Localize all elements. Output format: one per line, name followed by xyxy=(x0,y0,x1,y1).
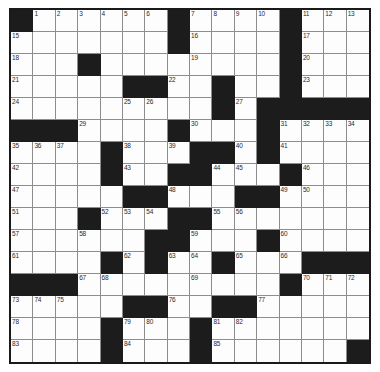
grid-letter-square[interactable] xyxy=(235,230,257,252)
grid-letter-square[interactable]: 29 xyxy=(78,120,100,142)
grid-letter-square[interactable]: 80 xyxy=(145,318,167,340)
grid-letter-square[interactable] xyxy=(302,208,324,230)
grid-letter-square[interactable] xyxy=(257,252,279,274)
grid-letter-square[interactable]: 31 xyxy=(280,120,302,142)
grid-letter-square[interactable] xyxy=(56,54,78,76)
grid-letter-square[interactable]: 51 xyxy=(11,208,33,230)
grid-letter-square[interactable] xyxy=(33,54,55,76)
grid-letter-square[interactable] xyxy=(190,186,212,208)
grid-letter-square[interactable]: 56 xyxy=(235,208,257,230)
grid-letter-square[interactable]: 25 xyxy=(123,98,145,120)
grid-letter-square[interactable] xyxy=(235,76,257,98)
grid-letter-square[interactable] xyxy=(324,164,346,186)
grid-letter-square[interactable] xyxy=(78,252,100,274)
grid-letter-square[interactable] xyxy=(78,76,100,98)
grid-letter-square[interactable] xyxy=(257,208,279,230)
grid-letter-square[interactable]: 5 xyxy=(123,10,145,32)
grid-letter-square[interactable] xyxy=(235,32,257,54)
grid-letter-square[interactable]: 73 xyxy=(11,296,33,318)
grid-letter-square[interactable] xyxy=(145,54,167,76)
grid-letter-square[interactable] xyxy=(190,98,212,120)
grid-letter-square[interactable] xyxy=(101,98,123,120)
grid-letter-square[interactable]: 13 xyxy=(347,10,369,32)
grid-letter-square[interactable]: 78 xyxy=(11,318,33,340)
grid-letter-square[interactable] xyxy=(33,208,55,230)
grid-letter-square[interactable] xyxy=(324,76,346,98)
grid-letter-square[interactable] xyxy=(123,120,145,142)
grid-letter-square[interactable] xyxy=(78,340,100,362)
grid-letter-square[interactable] xyxy=(235,120,257,142)
grid-letter-square[interactable] xyxy=(347,142,369,164)
grid-letter-square[interactable] xyxy=(145,274,167,296)
grid-letter-square[interactable]: 83 xyxy=(11,340,33,362)
grid-letter-square[interactable] xyxy=(347,54,369,76)
grid-letter-square[interactable] xyxy=(257,164,279,186)
grid-letter-square[interactable] xyxy=(33,340,55,362)
grid-letter-square[interactable]: 54 xyxy=(145,208,167,230)
grid-letter-square[interactable]: 33 xyxy=(324,120,346,142)
grid-letter-square[interactable] xyxy=(347,318,369,340)
grid-letter-square[interactable]: 62 xyxy=(123,252,145,274)
grid-letter-square[interactable]: 23 xyxy=(302,76,324,98)
grid-letter-square[interactable] xyxy=(78,186,100,208)
grid-letter-square[interactable] xyxy=(101,54,123,76)
grid-letter-square[interactable]: 66 xyxy=(280,252,302,274)
grid-letter-square[interactable] xyxy=(324,296,346,318)
grid-letter-square[interactable]: 79 xyxy=(123,318,145,340)
grid-letter-square[interactable]: 11 xyxy=(302,10,324,32)
grid-letter-square[interactable]: 6 xyxy=(145,10,167,32)
grid-letter-square[interactable]: 50 xyxy=(302,186,324,208)
grid-letter-square[interactable]: 9 xyxy=(235,10,257,32)
grid-letter-square[interactable] xyxy=(302,296,324,318)
grid-letter-square[interactable] xyxy=(257,274,279,296)
grid-letter-square[interactable]: 16 xyxy=(190,32,212,54)
grid-letter-square[interactable] xyxy=(78,98,100,120)
grid-letter-square[interactable]: 57 xyxy=(11,230,33,252)
grid-letter-square[interactable]: 52 xyxy=(101,208,123,230)
grid-letter-square[interactable]: 34 xyxy=(347,120,369,142)
grid-letter-square[interactable]: 67 xyxy=(78,274,100,296)
grid-letter-square[interactable] xyxy=(302,340,324,362)
grid-letter-square[interactable] xyxy=(123,230,145,252)
grid-letter-square[interactable]: 71 xyxy=(324,274,346,296)
grid-letter-square[interactable] xyxy=(324,32,346,54)
grid-letter-square[interactable] xyxy=(235,54,257,76)
grid-letter-square[interactable]: 45 xyxy=(235,164,257,186)
grid-letter-square[interactable] xyxy=(101,76,123,98)
grid-letter-square[interactable]: 59 xyxy=(190,230,212,252)
grid-letter-square[interactable] xyxy=(33,252,55,274)
grid-letter-square[interactable] xyxy=(168,340,190,362)
grid-letter-square[interactable] xyxy=(324,142,346,164)
grid-letter-square[interactable]: 41 xyxy=(280,142,302,164)
grid-letter-square[interactable]: 7 xyxy=(190,10,212,32)
grid-letter-square[interactable]: 74 xyxy=(33,296,55,318)
grid-letter-square[interactable] xyxy=(302,318,324,340)
grid-letter-square[interactable] xyxy=(101,296,123,318)
grid-letter-square[interactable] xyxy=(347,32,369,54)
grid-letter-square[interactable] xyxy=(280,318,302,340)
grid-letter-square[interactable]: 26 xyxy=(145,98,167,120)
grid-letter-square[interactable]: 27 xyxy=(235,98,257,120)
grid-letter-square[interactable] xyxy=(257,318,279,340)
grid-letter-square[interactable]: 81 xyxy=(212,318,234,340)
grid-letter-square[interactable]: 36 xyxy=(33,142,55,164)
grid-letter-square[interactable] xyxy=(123,54,145,76)
grid-letter-square[interactable]: 65 xyxy=(235,252,257,274)
grid-letter-square[interactable]: 48 xyxy=(168,186,190,208)
grid-letter-square[interactable] xyxy=(56,340,78,362)
grid-letter-square[interactable]: 84 xyxy=(123,340,145,362)
grid-letter-square[interactable]: 32 xyxy=(302,120,324,142)
grid-letter-square[interactable] xyxy=(33,164,55,186)
grid-letter-square[interactable]: 61 xyxy=(11,252,33,274)
grid-letter-square[interactable] xyxy=(280,340,302,362)
grid-letter-square[interactable] xyxy=(324,230,346,252)
grid-letter-square[interactable]: 17 xyxy=(302,32,324,54)
grid-letter-square[interactable] xyxy=(212,274,234,296)
grid-letter-square[interactable] xyxy=(324,340,346,362)
grid-letter-square[interactable] xyxy=(168,98,190,120)
grid-letter-square[interactable] xyxy=(302,230,324,252)
grid-letter-square[interactable] xyxy=(78,142,100,164)
grid-letter-square[interactable] xyxy=(257,54,279,76)
grid-letter-square[interactable] xyxy=(56,76,78,98)
grid-letter-square[interactable] xyxy=(212,120,234,142)
